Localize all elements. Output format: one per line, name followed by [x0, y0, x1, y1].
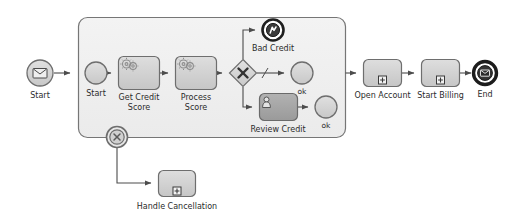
- start-message-label: Start: [30, 91, 50, 100]
- inner-start-label: Start: [86, 89, 106, 98]
- task-handle-cancellation[interactable]: Handle Cancellation: [137, 171, 217, 211]
- end-message-event[interactable]: End: [474, 62, 497, 99]
- inner-start-event[interactable]: Start: [85, 62, 107, 98]
- bpmn-diagram-canvas: Start Start Get Credit Score Proces: [0, 0, 514, 221]
- envelope-filled-icon: [481, 70, 490, 76]
- flow-cancel-to-handle-cancellation: [117, 148, 151, 183]
- ok-bottom-circle: [315, 96, 337, 118]
- get-credit-score-label-2: Score: [128, 103, 150, 112]
- process-score-box: [176, 57, 217, 90]
- ok-bottom-label: ok: [322, 121, 332, 130]
- cancel-boundary-event[interactable]: [107, 127, 128, 148]
- task-start-billing[interactable]: Start Billing: [417, 60, 464, 100]
- open-account-label: Open Account: [354, 91, 410, 100]
- inner-start-circle: [85, 62, 107, 84]
- envelope-icon: [33, 69, 47, 79]
- task-open-account[interactable]: Open Account: [354, 60, 410, 100]
- bad-credit-label: Bad Credit: [252, 44, 294, 53]
- process-score-label-1: Process: [181, 93, 211, 102]
- end-message-label: End: [477, 90, 492, 99]
- get-credit-score-box: [119, 57, 160, 90]
- plus-marker-icon: [173, 187, 181, 195]
- plus-marker-icon: [379, 76, 387, 84]
- handle-cancellation-label: Handle Cancellation: [137, 202, 217, 211]
- start-billing-label: Start Billing: [417, 91, 464, 100]
- bpmn-diagram-svg: Start Start Get Credit Score Proces: [0, 0, 514, 221]
- process-score-label-2: Score: [185, 103, 207, 112]
- plus-marker-icon: [437, 76, 445, 84]
- ok-top-circle: [291, 62, 313, 84]
- start-message-event[interactable]: Start: [27, 60, 53, 100]
- get-credit-score-label-1: Get Credit: [119, 93, 160, 102]
- review-credit-label: Review Credit: [250, 125, 305, 134]
- ok-top-label: ok: [298, 87, 308, 96]
